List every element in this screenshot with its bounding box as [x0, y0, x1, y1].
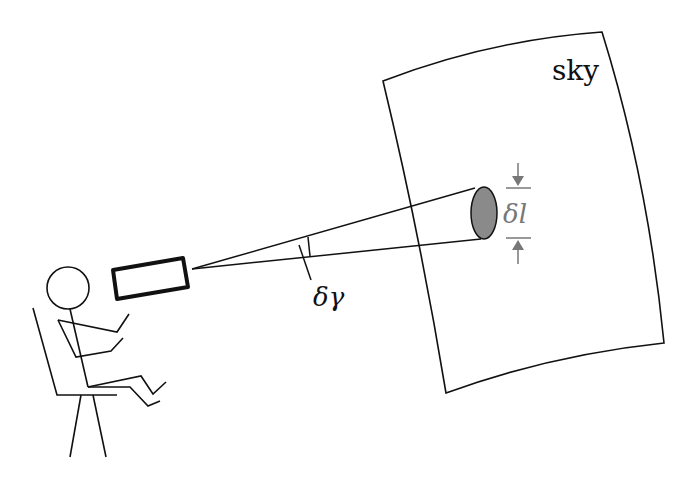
diagram-canvas: sky δγ δl	[0, 0, 689, 477]
sky-label: sky	[552, 54, 599, 87]
telescope	[113, 258, 188, 299]
beam-cone	[192, 188, 481, 269]
angle-label: δγ	[313, 282, 345, 312]
angle-marker	[299, 237, 311, 280]
observer-head	[47, 267, 89, 309]
telescope-sky-diagram: sky δγ δl	[0, 0, 689, 477]
length-label: δl	[503, 199, 527, 229]
sky-spot	[471, 187, 497, 239]
